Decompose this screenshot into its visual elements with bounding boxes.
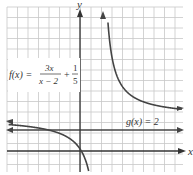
f-label-plus: + (64, 69, 70, 80)
f-label-frac1-den: x − 2 (38, 76, 59, 86)
g-function-label: g(x) = 2 (126, 116, 159, 128)
f-function-label: f(x) = 3x x − 2 + 1 5 (8, 58, 80, 92)
x-axis-label: x (187, 145, 193, 157)
y-axis-label: y (76, 0, 82, 10)
arrow-right-icon (177, 127, 184, 133)
f-label-frac2-num: 1 (73, 63, 78, 73)
x-axis-arrow-icon (178, 148, 186, 154)
g-function-line (6, 127, 184, 133)
x-axis: x (7, 145, 193, 157)
f-right-arrow-icon (177, 106, 184, 111)
function-graph: x y f(x) = 3x x − 2 + 1 5 g(x) = 2 (0, 0, 193, 175)
f-label-frac1-num: 3x (44, 63, 54, 73)
f-upper-arrow-icon (100, 11, 106, 19)
g-label: g(x) = 2 (126, 116, 159, 128)
f-label-lhs: f(x) = (9, 69, 32, 81)
f-function-curve (9, 22, 182, 171)
f-label-frac2-den: 5 (73, 76, 78, 86)
y-axis-arrow-icon (77, 9, 83, 17)
